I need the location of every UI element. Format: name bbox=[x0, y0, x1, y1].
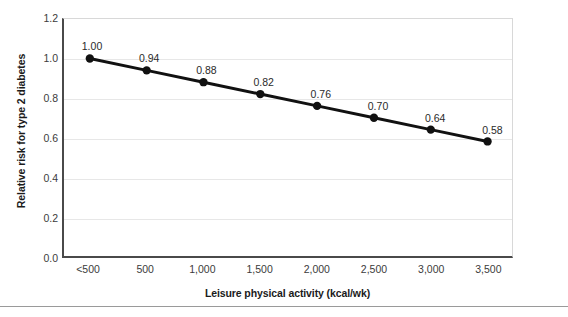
x-tick-label: 2,500 bbox=[361, 263, 387, 276]
data-point-marker bbox=[86, 54, 94, 62]
data-point-label: 0.88 bbox=[196, 65, 216, 76]
y-tick-label: 0.2 bbox=[32, 213, 58, 224]
data-point-label: 0.76 bbox=[311, 89, 331, 100]
x-axis-tick-labels: <5005001,0001,5002,0002,5003,0003,500 bbox=[62, 263, 513, 279]
x-axis-title: Leisure physical activity (kcal/wk) bbox=[62, 287, 513, 299]
bottom-divider bbox=[0, 306, 568, 307]
x-tick-label: 500 bbox=[136, 263, 154, 276]
data-point-label: 0.58 bbox=[482, 125, 502, 136]
x-tick-label: 1,000 bbox=[189, 263, 215, 276]
data-point-marker bbox=[142, 66, 150, 74]
data-point-marker bbox=[370, 114, 378, 122]
y-tick-label: 1.0 bbox=[32, 53, 58, 64]
data-point-marker bbox=[199, 78, 207, 86]
x-tick-label: 3,500 bbox=[475, 263, 501, 276]
y-tick-label: 0.4 bbox=[32, 173, 58, 184]
y-axis-title: Relative risk for type 2 diabetes bbox=[10, 2, 32, 260]
data-point-label: 1.00 bbox=[82, 41, 102, 52]
y-tick-label: 0.0 bbox=[32, 253, 58, 264]
y-tick-label: 1.2 bbox=[32, 13, 58, 24]
data-point-marker bbox=[427, 125, 435, 133]
y-tick-label: 0.6 bbox=[32, 133, 58, 144]
line-series bbox=[64, 19, 512, 256]
data-point-marker bbox=[483, 137, 491, 145]
chart-figure: Relative risk for type 2 diabetes 0.00.2… bbox=[0, 0, 568, 317]
plot-area: 1.000.940.880.820.760.700.640.58 bbox=[62, 18, 513, 258]
x-tick-label: <500 bbox=[76, 263, 100, 276]
data-point-marker bbox=[256, 90, 264, 98]
data-point-label: 0.64 bbox=[425, 113, 445, 124]
x-tick-label: 3,000 bbox=[418, 263, 444, 276]
x-tick-label: 1,500 bbox=[246, 263, 272, 276]
data-point-label: 0.94 bbox=[139, 53, 159, 64]
data-point-label: 0.70 bbox=[368, 101, 388, 112]
data-point-label: 0.82 bbox=[253, 77, 273, 88]
y-axis-tick-labels: 0.00.20.40.60.81.01.2 bbox=[30, 0, 58, 317]
x-tick-label: 2,000 bbox=[304, 263, 330, 276]
y-tick-label: 0.8 bbox=[32, 93, 58, 104]
data-point-marker bbox=[313, 102, 321, 110]
